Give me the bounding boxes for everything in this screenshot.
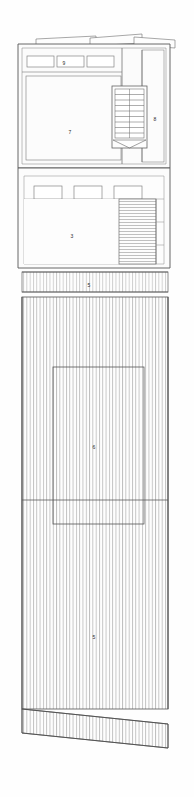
mid-window-left xyxy=(34,186,62,199)
window-left xyxy=(27,56,54,67)
room-label-7: 7 xyxy=(69,130,72,135)
middle-window-group xyxy=(34,186,142,199)
middle-block xyxy=(18,168,170,268)
room-label-6: 6 xyxy=(93,445,96,450)
upper-window-group xyxy=(27,56,114,67)
floor-plan-drawing xyxy=(0,0,194,797)
room-label-5-yard: 5 xyxy=(93,635,96,640)
room-label-5-strip: 5 xyxy=(88,283,91,288)
floor-plan-canvas: 9 7 8 3 5 6 5 xyxy=(0,0,194,797)
room-label-3: 3 xyxy=(71,234,74,239)
lower-yard xyxy=(22,297,168,709)
main-upper-room-7 xyxy=(26,76,121,160)
upper-block xyxy=(18,44,170,168)
mid-window-center xyxy=(74,186,102,199)
slanted-bottom-band xyxy=(22,709,168,748)
room-label-9: 9 xyxy=(63,61,66,66)
skirt-hatch-area xyxy=(22,709,168,748)
hatched-strip-band xyxy=(22,272,168,292)
strip-hatch-area xyxy=(22,272,168,292)
mid-window-right xyxy=(114,186,142,199)
window-right xyxy=(87,56,114,67)
upper-staircase xyxy=(115,89,144,138)
middle-room-3 xyxy=(24,199,119,264)
middle-stair-run xyxy=(119,199,156,264)
room-label-8: 8 xyxy=(154,117,157,122)
window-center xyxy=(57,56,84,67)
lower-yard-hatching xyxy=(22,297,168,709)
